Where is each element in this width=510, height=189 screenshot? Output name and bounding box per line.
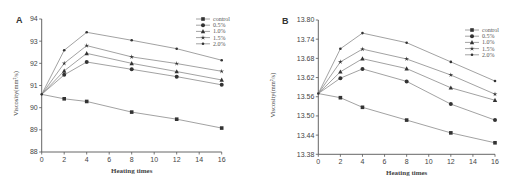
legend-marker [202,43,205,46]
data-point [130,67,134,71]
legend-label: control [482,27,499,33]
x-tick-label: 10 [150,156,158,163]
y-tick-label: 13.62 [297,74,315,81]
data-point [62,73,66,77]
y-tick-label: 90 [30,104,38,111]
data-point [85,51,89,55]
x-axis-label: Heating times [111,167,153,175]
y-tick-label: 89 [30,126,38,133]
series-1-0pct [318,56,497,102]
data-point [493,118,497,122]
y-tick-label: 13.56 [297,93,315,100]
y-tick-label: 92 [30,60,38,67]
y-axis-label: Viscosity(mm²/s) [12,71,20,116]
data-point [338,59,343,64]
legend-label: 1.0% [213,28,226,34]
data-point [85,31,88,34]
legend-label: 2.0% [213,41,226,47]
y-tick-label: 88 [30,148,38,155]
data-point [493,92,498,97]
data-point [338,76,342,80]
data-point [175,47,178,50]
y-tick-label: 13.74 [297,36,315,43]
data-point [405,118,409,122]
series-1-5pct [318,47,497,97]
chart-panel-b: B13.3813.4413.5013.5613.6213.6813.7413.8… [255,0,510,189]
data-point [85,100,89,104]
x-tick-label: 2 [338,158,342,165]
y-tick-label: 13.38 [297,151,315,158]
data-point [449,102,453,106]
y-tick-label: 13.50 [297,112,315,119]
chart-panel-a: A888990919293940246810121416Heating time… [0,0,255,189]
y-tick-label: 93 [30,38,38,45]
data-point [493,141,497,145]
data-point [360,67,364,71]
data-point [85,60,89,64]
legend-label: 1.5% [213,35,226,41]
data-point [62,97,66,101]
legend-label: 2.0% [482,52,495,58]
y-tick-label: 94 [30,15,38,22]
data-point [405,41,408,44]
x-tick-label: 0 [40,156,44,163]
series-2-0pct [318,32,496,94]
x-tick-label: 0 [316,158,320,165]
y-tick-label: 13.80 [297,16,315,23]
x-tick-label: 6 [107,156,111,163]
viscosity-chart-b: B13.3813.4413.5013.5613.6213.6813.7413.8… [255,0,510,189]
x-tick-label: 8 [130,156,134,163]
legend-label: 0.5% [213,22,226,28]
data-point [449,131,453,135]
panel-label: B [282,16,289,26]
data-point [361,32,364,35]
series-1-0pct [42,51,224,94]
x-tick-label: 4 [85,156,89,163]
data-point [360,56,364,60]
x-tick-label: 2 [62,156,66,163]
panel-label: A [16,15,23,25]
data-point [130,39,133,42]
x-tick-label: 6 [383,158,387,165]
data-point [220,59,223,62]
series-0-5pct [318,67,497,122]
legend-label: control [213,16,230,22]
data-point [63,49,66,52]
data-point [361,105,365,109]
legend-marker [201,17,205,21]
legend: control0.5%1.0%1.5%2.0% [465,27,499,58]
y-tick-label: 13.44 [297,132,315,139]
series-line [318,69,495,120]
x-tick-label: 10 [425,158,433,165]
legend-marker [470,34,474,38]
x-tick-label: 16 [491,158,499,165]
data-point [220,83,224,87]
legend-marker [471,54,474,57]
x-tick-label: 14 [195,156,203,163]
x-tick-label: 14 [469,158,477,165]
series-line [318,94,495,143]
legend-label: 0.5% [482,33,495,39]
data-point [405,79,409,83]
y-axis-label: Viscosity(mm²/s) [269,73,277,118]
data-point [62,68,66,72]
data-point [62,61,67,66]
data-point [450,61,453,64]
data-point-start [40,93,43,96]
y-tick-label: 13.68 [297,55,315,62]
data-point [175,75,179,79]
y-tick-label: 91 [30,82,38,89]
series-control [318,94,497,145]
data-point [339,47,342,50]
x-axis-label: Heating times [386,169,428,177]
x-tick-label: 12 [173,156,181,163]
data-point-start [317,92,320,95]
viscosity-chart-a: A888990919293940246810121416Heating time… [0,0,255,189]
legend-label: 1.5% [482,46,495,52]
series-0-5pct [42,60,224,94]
data-point [339,96,343,100]
legend-marker [201,23,205,27]
data-point [338,69,342,73]
x-tick-label: 8 [405,158,409,165]
series-control [42,94,224,129]
